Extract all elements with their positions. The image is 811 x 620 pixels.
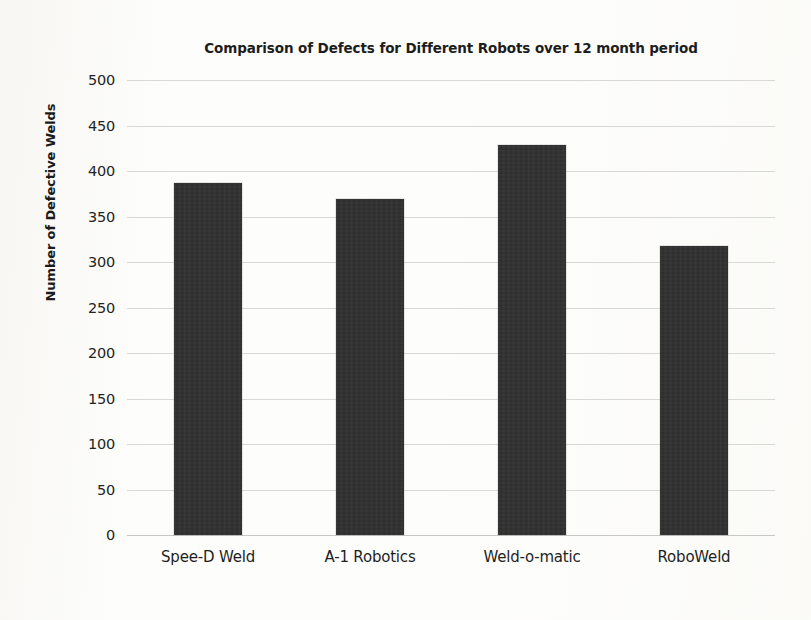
y-tick-label: 0 [67,527,115,543]
bar [336,199,404,535]
bar [174,183,242,535]
y-tick-label: 100 [67,436,115,452]
chart-page: Comparison of Defects for Different Robo… [0,0,811,620]
y-tick-label: 450 [67,118,115,134]
y-tick-label: 300 [67,254,115,270]
bar [660,246,728,535]
x-axis-baseline [127,535,775,536]
x-axis-tick-labels: Spee-D WeldA-1 RoboticsWeld-o-maticRoboW… [127,548,775,578]
y-tick-label: 50 [67,482,115,498]
y-axis-tick-labels: 500450400350300250200150100500 [63,80,115,535]
x-tick-label: Weld-o-matic [483,548,580,566]
y-tick-label: 350 [67,209,115,225]
y-axis-title: Number of Defective Welds [43,73,58,333]
y-tick-label: 400 [67,163,115,179]
gridline [127,80,775,81]
chart-title: Comparison of Defects for Different Robo… [127,40,775,56]
gridline [127,171,775,172]
y-tick-label: 200 [67,345,115,361]
y-tick-label: 250 [67,300,115,316]
x-tick-label: Spee-D Weld [161,548,255,566]
x-tick-label: RoboWeld [658,548,731,566]
y-tick-label: 500 [67,72,115,88]
gridline [127,126,775,127]
x-tick-label: A-1 Robotics [325,548,416,566]
bar [498,145,566,535]
y-tick-label: 150 [67,391,115,407]
plot-area [127,80,775,535]
